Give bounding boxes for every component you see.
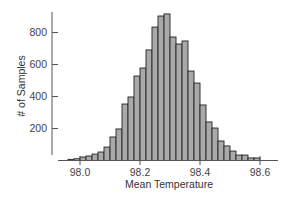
histogram-chart: 200400600800 98.098.298.498.6 Mean Tempe… <box>0 0 295 204</box>
histogram-bar <box>110 137 116 161</box>
histogram-bar <box>158 16 164 160</box>
histogram-bar <box>218 141 224 161</box>
histogram-bar <box>170 37 176 161</box>
histogram-bar <box>146 50 152 161</box>
histogram-bar <box>230 151 236 160</box>
histogram-bar <box>152 27 158 160</box>
x-tick-label: 98.4 <box>190 166 211 178</box>
histogram-bar <box>104 147 110 160</box>
histogram-bar <box>116 129 122 161</box>
histogram-bar <box>164 14 170 161</box>
y-axis-title: # of Samples <box>15 55 27 116</box>
histogram-bar <box>92 154 98 160</box>
x-tick-label: 98.2 <box>130 166 151 178</box>
histogram-bar <box>212 128 218 160</box>
histogram-bar <box>236 155 242 160</box>
histogram-bar <box>242 155 248 160</box>
histogram-bar <box>128 97 134 161</box>
y-tick-label: 400 <box>29 90 47 102</box>
x-tick-label: 98.6 <box>250 166 271 178</box>
histogram-bars <box>68 14 260 161</box>
histogram-bar <box>200 105 206 161</box>
histogram-bar <box>140 68 146 160</box>
y-axis-ticks: 200400600800 <box>29 26 58 134</box>
histogram-bar <box>134 76 140 160</box>
histogram-bar <box>206 122 212 161</box>
y-tick-label: 600 <box>29 58 47 70</box>
y-tick-label: 200 <box>29 122 47 134</box>
histogram-bar <box>182 41 188 161</box>
x-axis-title: Mean Temperature <box>125 178 213 190</box>
histogram-bar <box>98 152 104 160</box>
histogram-bar <box>122 104 128 160</box>
histogram-bar <box>80 157 86 161</box>
histogram-bar <box>188 71 194 160</box>
histogram-bar <box>86 156 92 160</box>
x-tick-label: 98.0 <box>70 166 91 178</box>
y-tick-label: 800 <box>29 26 47 38</box>
histogram-bar <box>224 146 230 161</box>
histogram-bar <box>194 83 200 160</box>
histogram-bar <box>176 44 182 160</box>
